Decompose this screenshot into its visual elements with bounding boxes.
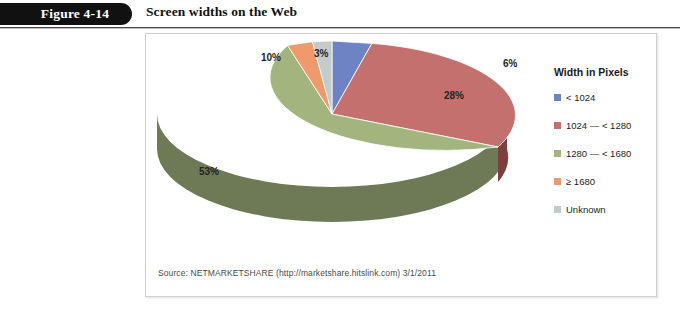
legend-swatch-icon-lt-1024 [554,94,561,101]
legend-swatch-icon-unknown [554,206,561,213]
legend-item-gte-1680[interactable]: ≥ 1680 [554,176,654,187]
legend-item-1024-1280[interactable]: 1024 — < 1280 [554,120,654,131]
pie-chart-3d: 6% 28% 53% 10% 3% [146,36,531,261]
pie-chart-plot-area: 6% 28% 53% 10% 3% [146,34,546,259]
chart-panel: 6% 28% 53% 10% 3% Width in Pixels < 1024… [145,33,657,297]
pie-value-label-28: 28% [444,90,464,101]
chart-legend: Width in Pixels < 1024 1024 — < 1280 128… [554,66,654,232]
pie-value-label-6: 6% [503,58,517,69]
legend-label-1280-1680: 1280 — < 1680 [566,148,631,159]
legend-item-1280-1680[interactable]: 1280 — < 1680 [554,148,654,159]
legend-title: Width in Pixels [554,66,654,78]
legend-label-unknown: Unknown [566,204,606,215]
legend-item-lt-1024[interactable]: < 1024 [554,92,654,103]
legend-item-unknown[interactable]: Unknown [554,204,654,215]
figure-header: Figure 4-14 Screen widths on the Web [0,0,680,28]
figure-number-tab: Figure 4-14 [0,3,132,25]
legend-swatch-icon-1280-1680 [554,150,561,157]
legend-label-gte-1680: ≥ 1680 [566,176,595,187]
figure-number-label: Figure 4-14 [23,6,109,22]
legend-label-lt-1024: < 1024 [566,92,595,103]
legend-swatch-icon-1024-1280 [554,122,561,129]
header-divider-shadow [0,28,680,29]
pie-value-label-53: 53% [199,166,219,177]
pie-value-label-3: 3% [314,48,328,59]
legend-swatch-icon-gte-1680 [554,178,561,185]
figure-title: Screen widths on the Web [146,4,297,20]
pie-top-slices [270,41,515,150]
pie-value-label-10: 10% [261,52,281,63]
chart-source-note: Source: NETMARKETSHARE (http://marketsha… [158,268,436,278]
legend-label-1024-1280: 1024 — < 1280 [566,120,631,131]
pie-svg [146,36,531,261]
